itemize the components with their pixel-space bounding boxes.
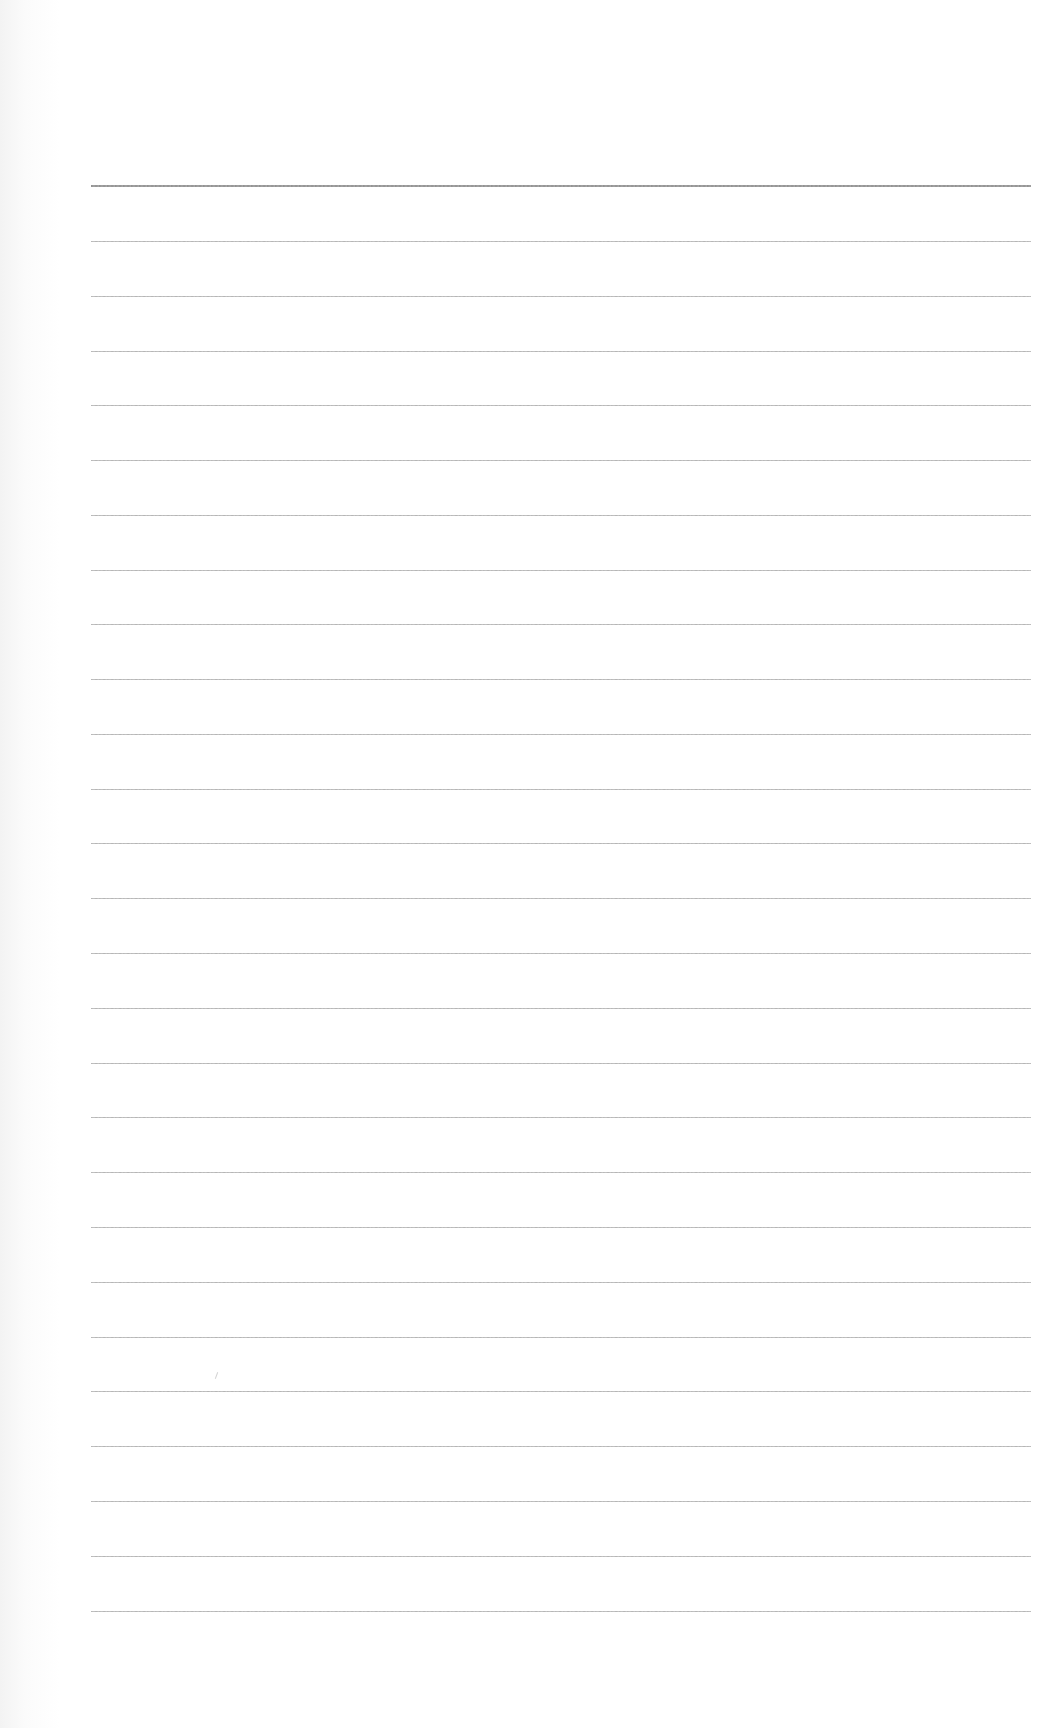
ruled-line: [91, 953, 1031, 954]
ruled-line: [91, 460, 1031, 461]
ruled-line: [91, 1337, 1031, 1338]
ruled-line: [91, 570, 1031, 571]
ruled-line: [91, 843, 1031, 844]
ruled-line: [91, 1008, 1031, 1009]
lined-paper-sheet: [0, 0, 1041, 1728]
header-rule-line: [91, 185, 1031, 187]
ruled-line: [91, 624, 1031, 625]
ruled-line: [91, 1556, 1031, 1557]
ruled-line: [91, 1282, 1031, 1283]
ruled-line: [91, 1063, 1031, 1064]
ruled-line: [91, 789, 1031, 790]
ruled-line: [91, 1117, 1031, 1118]
ruled-line: [91, 1611, 1031, 1612]
ruled-line: [91, 405, 1031, 406]
ruled-line: [91, 1227, 1031, 1228]
ruled-line: [91, 241, 1031, 242]
ruled-line: [91, 1446, 1031, 1447]
ruled-line: [91, 1172, 1031, 1173]
ruled-line: [91, 351, 1031, 352]
paper-speck: [215, 1372, 218, 1379]
ruled-line: [91, 515, 1031, 516]
ruled-line: [91, 898, 1031, 899]
ruled-line: [91, 296, 1031, 297]
ruled-line: [91, 679, 1031, 680]
ruled-line: [91, 734, 1031, 735]
ruled-line: [91, 1391, 1031, 1392]
ruled-line: [91, 1501, 1031, 1502]
